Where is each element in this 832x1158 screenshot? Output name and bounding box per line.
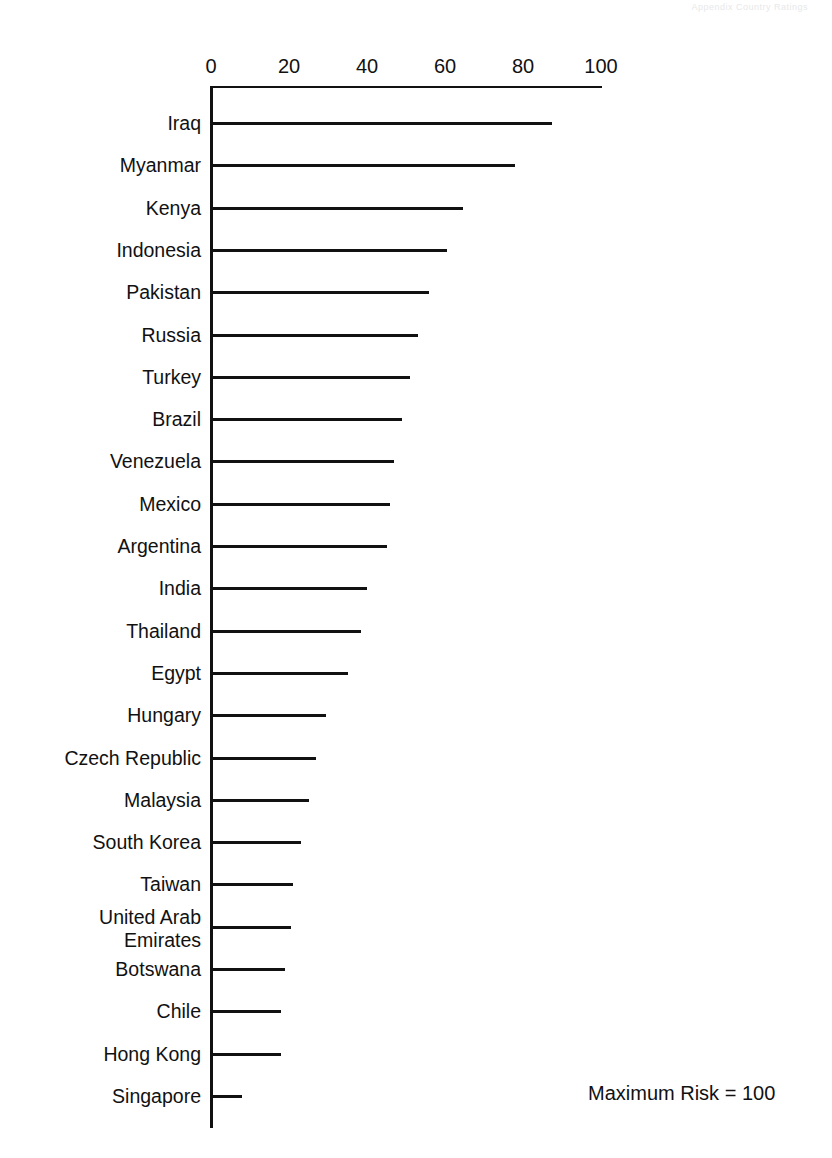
bar-category-label: Egypt [11, 662, 201, 685]
bar-row: Indonesia [0, 229, 832, 271]
bar-category-label: United Arab Emirates [11, 906, 201, 952]
bar-line [211, 799, 309, 802]
bar-category-label: Botswana [11, 958, 201, 981]
bar-category-label: Argentina [11, 535, 201, 558]
bar-category-label: South Korea [11, 831, 201, 854]
bar-category-label: Taiwan [11, 873, 201, 896]
bar-category-label: Venezuela [11, 450, 201, 473]
bar-category-label: Malaysia [11, 789, 201, 812]
bar-line [211, 376, 410, 379]
bar-line [211, 968, 285, 971]
bar-line [211, 460, 394, 463]
x-tick-label-40: 40 [356, 55, 378, 77]
bar-line [211, 587, 367, 590]
axis-top-rule [210, 86, 602, 88]
bar-line [211, 883, 293, 886]
bar-line [211, 207, 463, 210]
bar-category-label: Chile [11, 1000, 201, 1023]
bar-category-label: Singapore [11, 1085, 201, 1108]
bar-row: Venezuela [0, 440, 832, 482]
bar-line [211, 1053, 281, 1056]
bar-row: Argentina [0, 525, 832, 567]
bar-line [211, 757, 316, 760]
bar-category-label: Brazil [11, 408, 201, 431]
bar-row: Turkey [0, 356, 832, 398]
bar-category-label: Myanmar [11, 154, 201, 177]
bar-category-label: Turkey [11, 366, 201, 389]
bar-line [211, 291, 429, 294]
bar-line [211, 418, 402, 421]
bar-line [211, 841, 301, 844]
bar-row: Hong Kong [0, 1033, 832, 1075]
bar-category-label: Hong Kong [11, 1043, 201, 1066]
bar-line [211, 630, 361, 633]
bar-row: South Korea [0, 821, 832, 863]
x-tick-label-0: 0 [205, 55, 216, 77]
bar-category-label: Iraq [11, 112, 201, 135]
bar-category-label: Kenya [11, 197, 201, 220]
bar-category-label: Pakistan [11, 281, 201, 304]
bar-row: Czech Republic [0, 737, 832, 779]
country-risk-bar-chart: Appendix Country Ratings 020406080100 Ir… [0, 0, 832, 1158]
bar-row: United Arab Emirates [0, 906, 832, 948]
bar-category-label: India [11, 577, 201, 600]
bar-line [211, 122, 552, 125]
bar-row: Chile [0, 990, 832, 1032]
bar-category-label: Indonesia [11, 239, 201, 262]
max-risk-annotation: Maximum Risk = 100 [588, 1082, 775, 1105]
x-tick-label-20: 20 [278, 55, 300, 77]
x-tick-label-100: 100 [584, 55, 617, 77]
bar-row: Egypt [0, 652, 832, 694]
bar-row: Thailand [0, 610, 832, 652]
bar-line [211, 926, 291, 929]
bar-row: Botswana [0, 948, 832, 990]
bar-row: Russia [0, 314, 832, 356]
bar-line [211, 714, 326, 717]
plot-area: 020406080100 IraqMyanmarKenyaIndonesiaPa… [0, 0, 832, 1158]
bar-row: Mexico [0, 483, 832, 525]
bar-row: Hungary [0, 694, 832, 736]
bar-row: India [0, 567, 832, 609]
bar-line [211, 503, 390, 506]
bar-line [211, 164, 515, 167]
bar-line [211, 672, 348, 675]
bar-row: Brazil [0, 398, 832, 440]
bar-line [211, 545, 387, 548]
bar-row: Myanmar [0, 144, 832, 186]
bar-row: Iraq [0, 102, 832, 144]
bar-line [211, 249, 447, 252]
bar-category-label: Thailand [11, 620, 201, 643]
bar-category-label: Mexico [11, 493, 201, 516]
bar-row: Pakistan [0, 271, 832, 313]
x-tick-label-80: 80 [512, 55, 534, 77]
bar-category-label: Russia [11, 324, 201, 347]
bar-row: Taiwan [0, 863, 832, 905]
bar-line [211, 1010, 281, 1013]
x-tick-label-60: 60 [434, 55, 456, 77]
bar-line [211, 1095, 242, 1098]
bar-row: Malaysia [0, 779, 832, 821]
bar-category-label: Hungary [11, 704, 201, 727]
bar-category-label: Czech Republic [11, 747, 201, 770]
bar-row: Kenya [0, 187, 832, 229]
bar-line [211, 334, 418, 337]
